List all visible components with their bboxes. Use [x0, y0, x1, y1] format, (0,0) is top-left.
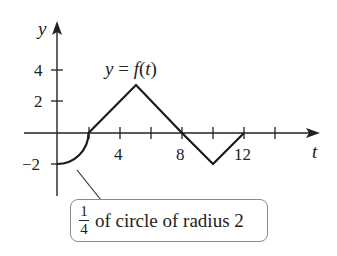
function-label: y = f(t): [103, 58, 157, 80]
y-axis-label: y: [36, 18, 47, 39]
y-tick-label-4: 4: [34, 61, 43, 80]
t-tick-label-12: 12: [234, 145, 251, 164]
function-polyline: [89, 85, 245, 164]
fraction-denominator: 4: [80, 222, 88, 237]
t-tick-label-8: 8: [176, 145, 185, 164]
y-tick-label-2: 2: [34, 92, 43, 111]
fraction-one-quarter: 1 4: [79, 204, 89, 237]
callout-leader: [77, 170, 101, 200]
callout-text: of circle of radius 2: [95, 210, 244, 232]
t-axis-label: t: [312, 141, 318, 162]
fraction-numerator: 1: [80, 204, 88, 219]
t-tick-label-4: 4: [114, 145, 123, 164]
callout-box: 1 4 of circle of radius 2: [70, 199, 268, 242]
y-tick-label-neg2: −2: [22, 155, 40, 174]
quarter-circle-arc: [57, 133, 89, 164]
